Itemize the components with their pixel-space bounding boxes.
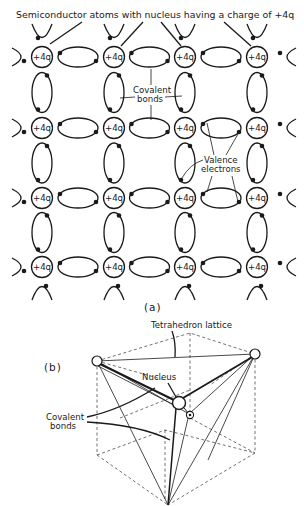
covalent-bonds-annotation: Covalent bonds (120, 69, 182, 120)
atom-nucleus: +4q (175, 118, 196, 139)
panel-a-caption: (a) (144, 301, 162, 313)
covalent-bond (130, 47, 170, 67)
atom-lattice: +4q+4q+4q+4q+4q+4q+4q+4q+4q+4q+4q+4q+4q+… (12, 24, 296, 300)
svg-text:electrons: electrons (201, 164, 241, 174)
covalent-bond (58, 188, 98, 208)
atom-nucleus: +4q (104, 47, 125, 68)
covalent-bond (175, 213, 195, 253)
atom-nucleus: +4q (104, 257, 125, 278)
tetrahedron-diagram (92, 333, 260, 505)
svg-text:+4q: +4q (248, 52, 266, 62)
svg-text:+4q: +4q (176, 123, 194, 133)
covalent-bond (58, 257, 98, 277)
corner-atom-left (92, 356, 102, 366)
corner-atom-right (250, 349, 260, 359)
tetrahedron-lattice-pointer (172, 331, 175, 357)
covalent-bond (104, 143, 124, 183)
covalent-bond (32, 73, 52, 113)
atom-nucleus: +4q (175, 47, 196, 68)
covalent-bond (58, 118, 98, 138)
atom-nucleus: +4q (175, 257, 196, 278)
covalent-bond (58, 47, 98, 67)
tetrahedron-lattice-label: Tetrahedron lattice (150, 320, 232, 330)
covalent-bonds-label-b-line2: bonds (50, 421, 77, 431)
svg-text:+4q: +4q (176, 262, 194, 272)
nucleus-atom (173, 397, 186, 410)
title-pointer-lines (50, 22, 251, 46)
atom-nucleus: +4q (104, 118, 125, 139)
svg-text:+4q: +4q (33, 193, 51, 203)
atom-nucleus: +4q (247, 188, 268, 209)
covalent-bond (201, 257, 241, 277)
svg-text:+4q: +4q (105, 193, 123, 203)
atom-nucleus: +4q (32, 257, 53, 278)
svg-text:+4q: +4q (248, 193, 266, 203)
svg-text:+4q: +4q (33, 262, 51, 272)
svg-text:+4q: +4q (248, 123, 266, 133)
panel-b-label: (b) (44, 361, 62, 373)
atom-nucleus: +4q (32, 118, 53, 139)
covalent-bond (247, 73, 267, 113)
covalent-bond (130, 257, 170, 277)
atom-nucleus: +4q (32, 47, 53, 68)
atom-nucleus: +4q (175, 188, 196, 209)
svg-text:+4q: +4q (176, 193, 194, 203)
svg-text:+4q: +4q (33, 52, 51, 62)
nucleus-pointer (168, 383, 176, 397)
svg-text:+4q: +4q (105, 52, 123, 62)
atom-nucleus: +4q (247, 47, 268, 68)
nucleus-label: Nucleus (142, 372, 177, 382)
covalent-bond (247, 213, 267, 253)
svg-text:bonds: bonds (137, 94, 164, 104)
atom-nucleus: +4q (32, 188, 53, 209)
covalent-bond (104, 213, 124, 253)
panel-a-title: Semiconductor atoms with nucleus having … (16, 9, 294, 20)
atom-nucleus: +4q (247, 118, 268, 139)
svg-text:+4q: +4q (248, 262, 266, 272)
covalent-bond (104, 73, 124, 113)
covalent-bond (175, 73, 195, 113)
covalent-bond (247, 143, 267, 183)
covalent-bond (130, 118, 170, 138)
svg-text:+4q: +4q (105, 123, 123, 133)
svg-text:+4q: +4q (176, 52, 194, 62)
dashed-cube (97, 333, 255, 505)
covalent-bond (130, 188, 170, 208)
covalent-bond (32, 213, 52, 253)
svg-text:+4q: +4q (33, 123, 51, 133)
covalent-bond (201, 47, 241, 67)
covalent-bond (32, 143, 52, 183)
atom-nucleus: +4q (104, 188, 125, 209)
atom-nucleus: +4q (247, 257, 268, 278)
svg-text:+4q: +4q (105, 262, 123, 272)
semiconductor-lattice-diagram: Semiconductor atoms with nucleus having … (0, 0, 304, 506)
covalent-bond (201, 118, 241, 138)
covalent-bond (175, 143, 195, 183)
